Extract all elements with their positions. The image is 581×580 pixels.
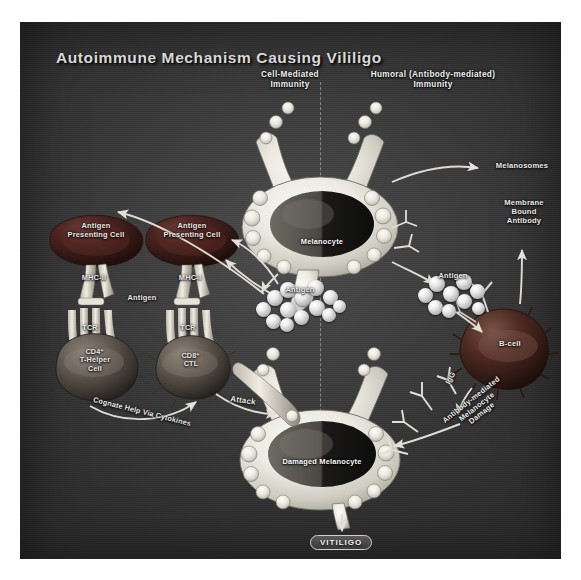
figure-root: Autoimmune Mechanism Causing Vililigo Ce…: [0, 0, 581, 580]
outcome-badge-vitiligo: VITILIGO: [310, 535, 372, 550]
cd4-t-helper-cell: [47, 308, 146, 411]
diagram-panel: Autoimmune Mechanism Causing Vililigo Ce…: [20, 22, 561, 559]
cd8-ctl-cell: [147, 308, 238, 409]
damaged-melanocyte-cell: [240, 348, 400, 531]
antigen-cluster-right: [418, 272, 490, 320]
antigen-peptide-groove: [78, 298, 200, 305]
antigen-cluster-center: [254, 280, 346, 332]
antigen-presenting-cell-left: [50, 215, 143, 300]
page-title: Autoimmune Mechanism Causing Vililigo: [56, 49, 382, 67]
